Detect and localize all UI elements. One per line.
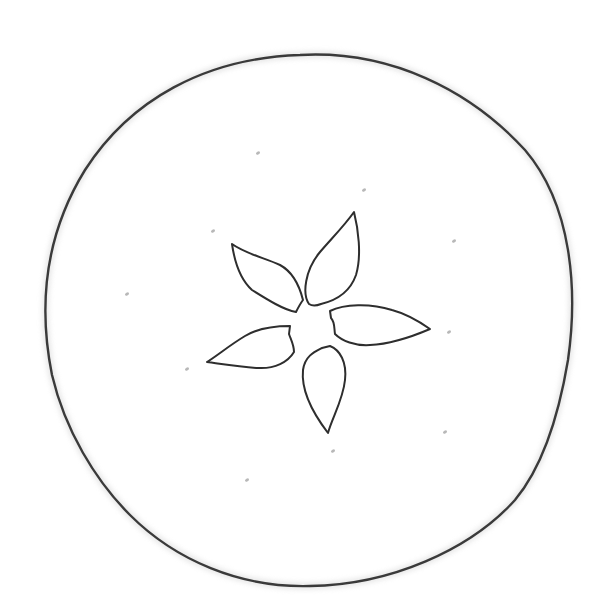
persimmon-drawing xyxy=(0,0,605,603)
